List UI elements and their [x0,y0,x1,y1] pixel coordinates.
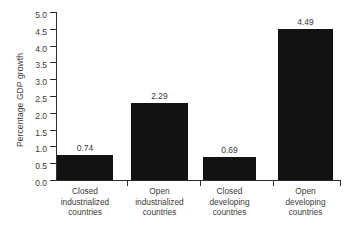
category-label-line: Open [262,186,345,197]
y-axis-tick-label: 1.0 [26,149,47,150]
y-axis-tick [50,113,56,114]
y-axis-tick [50,12,56,13]
y-axis-tick-label: 2.5 [26,99,47,100]
y-axis-tick [50,96,56,97]
y-axis-tick-label: 0.0 [26,183,47,184]
y-axis-title: Percentage GDP growth [15,25,25,175]
bar [57,155,113,180]
category-label-line: countries [186,207,274,218]
y-axis-tick [50,62,56,63]
bar-chart: Percentage GDP growth 0.00.51.01.52.02.5… [0,0,345,229]
y-axis-tick-label: 2.0 [26,116,47,117]
bar [131,103,188,180]
category-label-line: countries [262,207,345,218]
y-axis-tick-label: 1.5 [26,133,47,134]
bar-value-label: 4.49 [278,17,333,27]
bar [203,157,256,180]
category-label: Opendevelopingcountries [262,186,345,218]
bar [278,29,333,180]
y-axis-tick [50,29,56,30]
y-axis-tick-label: 5.0 [26,15,47,16]
y-axis-tick-label: 3.0 [26,82,47,83]
y-axis-tick [50,180,56,181]
y-axis-tick-label: 4.0 [26,49,47,50]
y-axis-tick [50,146,56,147]
y-axis-tick-label: 3.5 [26,65,47,66]
y-axis-tick-label: 0.5 [26,166,47,167]
y-axis-tick [50,163,56,164]
y-axis-tick [50,130,56,131]
category-label-line: Closed [186,186,274,197]
y-axis-tick-label: 4.5 [26,32,47,33]
y-axis-tick [50,46,56,47]
category-label-line: developing [262,197,345,208]
bar-value-label: 0.74 [57,143,113,153]
bar-value-label: 0.69 [203,145,256,155]
x-axis-line [56,180,341,181]
y-axis-tick [50,79,56,80]
category-label: Closeddevelopingcountries [186,186,274,218]
category-label-line: developing [186,197,274,208]
bar-value-label: 2.29 [131,91,188,101]
